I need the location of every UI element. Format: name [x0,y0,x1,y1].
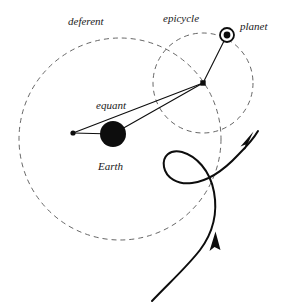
label-epicycle: epicycle [163,12,199,24]
label-deferent: deferent [68,15,105,27]
equant-to-epicycle-center-line [73,83,203,133]
label-equant: equant [96,99,127,111]
earth-to-epicycle-center-line [113,83,203,134]
lower-arrowhead-icon [210,232,221,252]
equant-point [70,130,75,135]
apparent-path-curve [152,131,258,301]
label-planet: planet [239,20,268,32]
epicycle-radius-line [203,35,227,83]
ptolemaic-epicycle-diagram: deferent epicycle planet equant Earth [0,0,288,307]
label-earth: Earth [97,160,124,172]
diagram-canvas: deferent epicycle planet equant Earth [0,0,288,307]
epicycle-center-marker [200,80,205,85]
earth-body [100,121,126,147]
planet-core-icon [224,32,231,39]
